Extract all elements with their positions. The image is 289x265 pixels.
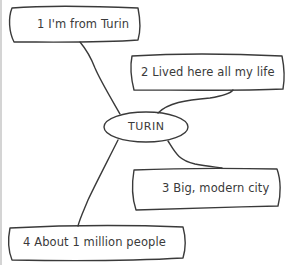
connector-center-to-node-2 (158, 90, 233, 113)
center-label: TURIN (128, 120, 164, 133)
connector-center-to-node-4 (78, 140, 118, 226)
connector-center-to-node-3 (168, 141, 222, 168)
node-3-label: 3 Big, modern city (162, 181, 269, 195)
node-1-label: 1 I'm from Turin (37, 17, 129, 31)
node-2-label: 2 Lived here all my life (141, 65, 275, 79)
node-4-label: 4 About 1 million people (23, 235, 166, 249)
connector-center-to-node-1 (80, 42, 120, 114)
